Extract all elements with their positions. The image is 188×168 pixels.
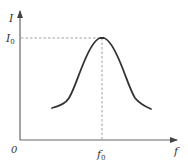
resonance-diagram: I I0 0 f0 f: [0, 0, 188, 168]
resonance-curve: [52, 38, 151, 109]
peak-current-label: I0: [5, 32, 15, 46]
y-axis-label: I: [8, 12, 14, 25]
origin-label: 0: [11, 144, 18, 155]
x-axis-label: f: [173, 145, 180, 158]
resonant-frequency-label: f0: [96, 148, 106, 162]
